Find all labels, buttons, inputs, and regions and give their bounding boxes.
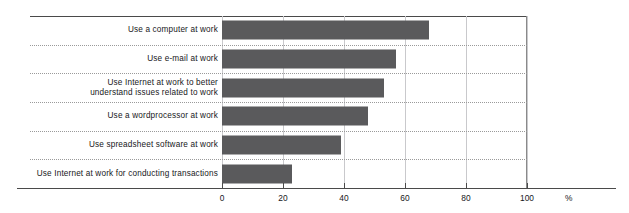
bar-chart-screenshot: Use a computer at workUse e-mail at work… xyxy=(0,0,629,213)
axis-tick-label-40: 40 xyxy=(339,193,348,203)
chart-row: Use Internet at work for conducting tran… xyxy=(30,159,527,188)
axis-tick-20 xyxy=(283,183,284,188)
axis-tick-60 xyxy=(405,183,406,188)
category-rows: Use a computer at workUse e-mail at work… xyxy=(30,16,527,188)
axis-tick-80 xyxy=(466,183,467,188)
bar-0 xyxy=(222,21,429,40)
chart-row: Use a computer at work xyxy=(30,16,527,45)
bar-4 xyxy=(222,135,341,154)
bar-5 xyxy=(222,164,292,183)
category-label: Use spreadsheet software at work xyxy=(13,140,218,150)
row-separator xyxy=(30,45,527,46)
chart-row: Use e-mail at work xyxy=(30,45,527,74)
axis-tick-label-80: 80 xyxy=(461,193,470,203)
axis-tick-0 xyxy=(222,183,223,188)
bar-2 xyxy=(222,78,384,97)
gridline-x-100 xyxy=(527,16,528,188)
axis-tick-label-100: 100 xyxy=(520,193,534,203)
chart-row: Use a wordprocessor at work xyxy=(30,102,527,131)
category-label: Use Internet at work to better understan… xyxy=(13,78,218,98)
row-separator xyxy=(30,131,527,132)
category-label: Use a computer at work xyxy=(13,25,218,35)
row-separator xyxy=(30,73,527,74)
axis-unit-label: % xyxy=(565,193,572,203)
category-label: Use Internet at work for conducting tran… xyxy=(13,169,218,179)
chart-row: Use Internet at work to better understan… xyxy=(30,73,527,102)
bar-1 xyxy=(222,49,396,68)
axis-tick-40 xyxy=(344,183,345,188)
category-label: Use a wordprocessor at work xyxy=(13,111,218,121)
axis-tick-label-0: 0 xyxy=(220,193,225,203)
chart-plot-frame: Use a computer at workUse e-mail at work… xyxy=(30,16,527,188)
bar-3 xyxy=(222,107,368,126)
category-label: Use e-mail at work xyxy=(13,54,218,64)
axis-tick-100 xyxy=(527,183,528,188)
axis-tick-label-60: 60 xyxy=(400,193,409,203)
axis-tick-label-20: 20 xyxy=(278,193,287,203)
row-separator xyxy=(30,159,527,160)
chart-row: Use spreadsheet software at work xyxy=(30,131,527,160)
row-separator xyxy=(30,102,527,103)
value-axis: 020406080100 xyxy=(222,188,527,213)
